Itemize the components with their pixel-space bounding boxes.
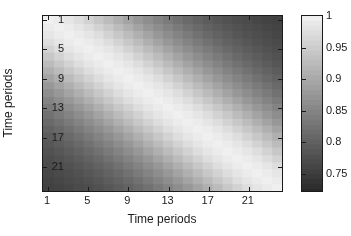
y-tick — [43, 138, 47, 139]
colorbar-tick-label: 0.95 — [326, 41, 347, 53]
y-tick-right — [278, 108, 282, 109]
colorbar-tick — [302, 111, 306, 112]
y-tick-right — [278, 167, 282, 168]
colorbar-tick-label: 1 — [326, 9, 332, 21]
y-tick — [43, 49, 47, 50]
y-axis-title: Time periods — [1, 63, 15, 143]
figure: 159131721 159131721 Time periods Time pe… — [0, 0, 351, 236]
heatmap-axes — [42, 15, 283, 192]
x-tick-label: 17 — [202, 194, 214, 206]
y-tick-label: 1 — [58, 13, 64, 25]
x-tick-label: 13 — [161, 194, 173, 206]
x-tick — [128, 187, 129, 191]
colorbar — [301, 15, 323, 192]
y-tick-right — [278, 138, 282, 139]
x-tick-label: 9 — [124, 194, 130, 206]
y-tick-label: 17 — [52, 131, 64, 143]
x-tick — [209, 187, 210, 191]
y-tick-label: 9 — [58, 72, 64, 84]
y-tick-right — [278, 49, 282, 50]
x-tick — [88, 187, 89, 191]
y-tick — [43, 167, 47, 168]
x-tick-top — [48, 16, 49, 20]
x-tick-top — [169, 16, 170, 20]
x-tick-label: 21 — [242, 194, 254, 206]
x-axis-title: Time periods — [128, 212, 197, 226]
y-tick-label: 21 — [52, 160, 64, 172]
colorbar-tick-label: 0.85 — [326, 104, 347, 116]
x-tick-top — [128, 16, 129, 20]
x-tick-top — [249, 16, 250, 20]
y-tick — [43, 79, 47, 80]
x-tick-top — [209, 16, 210, 20]
colorbar-tick — [302, 48, 306, 49]
y-tick-label: 5 — [58, 42, 64, 54]
y-tick-label: 13 — [52, 101, 64, 113]
colorbar-tick-label: 0.9 — [326, 72, 341, 84]
y-tick — [43, 108, 47, 109]
y-tick-right — [278, 20, 282, 21]
heatmap-image — [43, 16, 282, 191]
colorbar-tick — [302, 174, 306, 175]
x-tick — [48, 187, 49, 191]
y-tick-right — [278, 79, 282, 80]
x-tick-top — [88, 16, 89, 20]
colorbar-tick-label: 0.75 — [326, 167, 347, 179]
colorbar-gradient — [302, 16, 322, 191]
colorbar-tick — [302, 79, 306, 80]
x-tick-label: 1 — [44, 194, 50, 206]
colorbar-tick — [302, 142, 306, 143]
y-tick — [43, 20, 47, 21]
colorbar-tick-label: 0.8 — [326, 135, 341, 147]
x-tick — [249, 187, 250, 191]
x-tick-label: 5 — [84, 194, 90, 206]
x-tick — [169, 187, 170, 191]
